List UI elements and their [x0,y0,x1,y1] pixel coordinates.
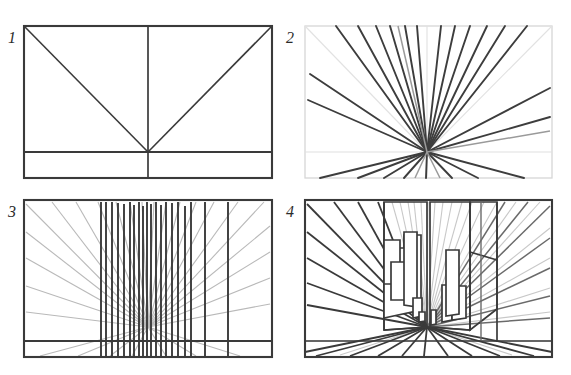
panel-4-number: 4 [286,204,294,220]
panel-1-number: 1 [8,30,16,46]
panel-3-number: 3 [8,204,16,220]
panel-2-ray [426,152,427,178]
panel-2-number: 2 [286,30,294,46]
panel-4-right-tall-slab [470,202,497,330]
panel-4-left-buildings [384,202,427,330]
panel-4-left-tower-f [419,312,425,322]
panel-4-left-tower-d [404,232,417,307]
perspective-tutorial-sheet [0,0,571,375]
panel-4-right-tower-c [446,250,459,316]
panel-4-right-tower-d [431,310,436,325]
